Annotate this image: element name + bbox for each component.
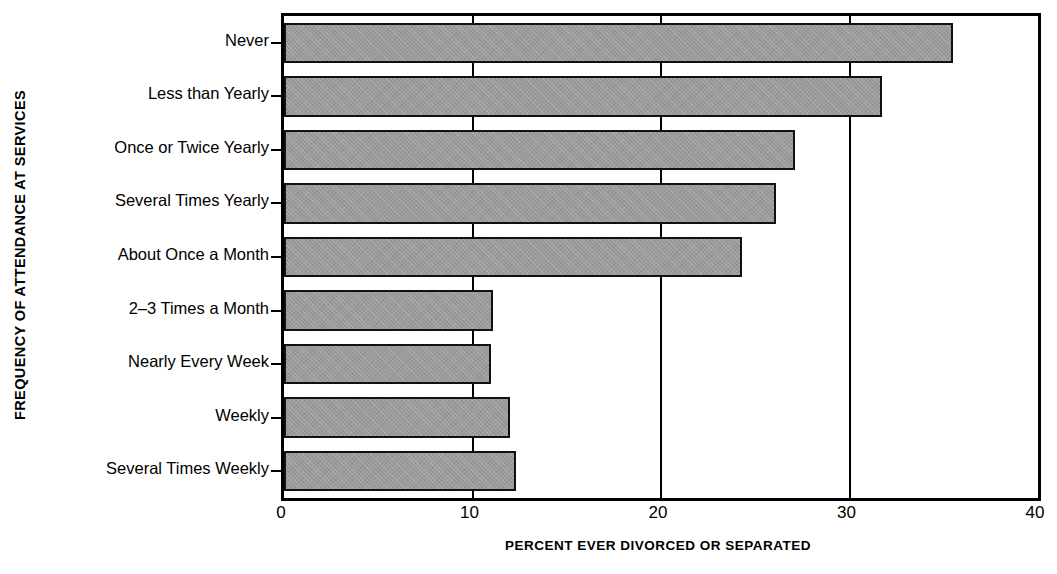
plot-area xyxy=(281,13,1041,501)
y-axis-tick xyxy=(271,202,282,204)
bar xyxy=(284,451,516,491)
y-axis-tick xyxy=(271,42,282,44)
y-axis-category-label: 2–3 Times a Month xyxy=(129,299,269,316)
plot-inner xyxy=(284,16,1038,498)
y-axis-category-label: Weekly xyxy=(215,406,269,423)
y-axis-category-label: Less than Yearly xyxy=(148,85,269,102)
y-axis-category-label: About Once a Month xyxy=(118,246,269,263)
bar xyxy=(284,183,776,223)
y-axis-tick xyxy=(271,470,282,472)
x-axis-tick-label: 30 xyxy=(837,504,856,521)
x-axis-tick-label: 0 xyxy=(276,504,285,521)
bar xyxy=(284,130,795,170)
y-axis-tick xyxy=(271,417,282,419)
bar xyxy=(284,237,742,277)
bar xyxy=(284,344,491,384)
y-axis-tick xyxy=(271,95,282,97)
y-axis-tick xyxy=(271,149,282,151)
y-axis-category-labels: NeverLess than YearlyOnce or Twice Yearl… xyxy=(44,13,269,495)
y-axis-tick xyxy=(271,256,282,258)
y-axis-tick xyxy=(271,363,282,365)
y-axis-category-label: Several Times Yearly xyxy=(115,192,269,209)
y-axis-category-label: Nearly Every Week xyxy=(128,353,269,370)
bar xyxy=(284,397,510,437)
y-axis-tick xyxy=(271,310,282,312)
y-axis-title: FREQUENCY OF ATTENDANCE AT SERVICES xyxy=(0,0,40,510)
bar xyxy=(284,290,493,330)
x-axis-tick-label: 10 xyxy=(460,504,479,521)
x-axis-title: PERCENT EVER DIVORCED OR SEPARATED xyxy=(281,538,1035,553)
y-axis-category-label: Several Times Weekly xyxy=(106,460,269,477)
x-axis-tick-label: 20 xyxy=(649,504,668,521)
y-axis-title-text: FREQUENCY OF ATTENDANCE AT SERVICES xyxy=(12,90,28,420)
y-axis-category-label: Once or Twice Yearly xyxy=(114,139,269,156)
y-axis-category-label: Never xyxy=(225,32,269,49)
bar xyxy=(284,76,882,116)
bar-chart: FREQUENCY OF ATTENDANCE AT SERVICES Neve… xyxy=(0,0,1057,574)
bar xyxy=(284,23,953,63)
x-axis-tick-label: 40 xyxy=(1026,504,1045,521)
